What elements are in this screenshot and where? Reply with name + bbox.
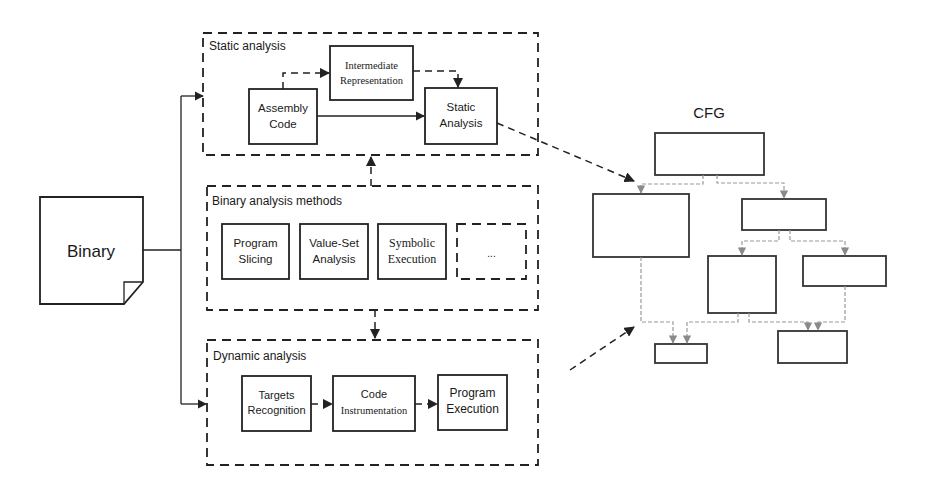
node-value-set-analysis: Value-Set Analysis xyxy=(300,224,368,279)
binary-fanout-connector xyxy=(143,96,206,404)
dynamic-analysis-group: Dynamic analysis Targets Recognition Cod… xyxy=(207,340,538,465)
svg-text:Execution: Execution xyxy=(446,402,499,416)
node-assembly-code: Assembly Code xyxy=(249,89,317,144)
binary-label: Binary xyxy=(67,242,116,261)
cfg-node-entry xyxy=(655,133,764,175)
node-static-analysis: Static Analysis xyxy=(425,88,497,144)
cfg-edge xyxy=(641,257,673,343)
dynamic-analysis-title: Dynamic analysis xyxy=(213,349,306,363)
edge-static-to-cfg xyxy=(497,123,634,181)
cfg-node-lower-left xyxy=(708,256,776,313)
diagram-canvas: Binary Static analysis Assembly Code Int… xyxy=(0,0,927,496)
svg-text:...: ... xyxy=(487,248,495,259)
svg-text:Representation: Representation xyxy=(340,75,404,86)
binary-document: Binary xyxy=(40,197,143,304)
svg-text:Targets: Targets xyxy=(258,389,295,401)
edge-assembly-to-ir xyxy=(283,73,329,89)
node-program-slicing: Program Slicing xyxy=(222,224,289,279)
svg-text:Program: Program xyxy=(449,386,495,400)
binary-methods-group: Binary analysis methods Program Slicing … xyxy=(207,157,538,338)
svg-text:Code: Code xyxy=(269,118,297,130)
cfg-edge xyxy=(742,230,779,255)
cfg-graph: CFG xyxy=(593,104,886,363)
svg-text:Value-Set: Value-Set xyxy=(309,237,359,249)
svg-text:Assembly: Assembly xyxy=(258,102,308,114)
svg-text:Analysis: Analysis xyxy=(440,117,483,129)
node-symbolic-execution: Symbolic Execution xyxy=(378,224,446,279)
node-targets-recognition: Targets Recognition xyxy=(242,376,311,431)
static-analysis-group: Static analysis Assembly Code Intermedia… xyxy=(203,33,538,155)
static-analysis-title: Static analysis xyxy=(209,39,286,53)
node-intermediate-representation: Intermediate Representation xyxy=(330,46,413,100)
node-code-instrumentation: Code Instrumentation xyxy=(333,376,415,431)
cfg-node-lower-right xyxy=(803,256,886,286)
cfg-edge xyxy=(749,313,808,330)
cfg-edge xyxy=(717,175,784,198)
edge-dynamic-to-cfg xyxy=(570,327,634,370)
svg-text:Symbolic: Symbolic xyxy=(389,236,435,250)
cfg-edge xyxy=(687,313,738,343)
svg-text:Intermediate: Intermediate xyxy=(345,60,398,71)
cfg-node-left xyxy=(593,194,689,257)
cfg-node-mid xyxy=(742,199,826,230)
edge-ir-to-static xyxy=(413,71,458,87)
node-program-execution: Program Execution xyxy=(438,375,507,430)
svg-text:Program: Program xyxy=(233,237,277,249)
svg-text:Execution: Execution xyxy=(388,252,437,266)
cfg-node-exit-right xyxy=(778,331,847,363)
svg-text:Code: Code xyxy=(361,388,387,400)
svg-text:Instrumentation: Instrumentation xyxy=(341,405,408,416)
cfg-title: CFG xyxy=(693,104,725,121)
svg-text:Recognition: Recognition xyxy=(247,404,305,416)
node-more-methods: ... xyxy=(457,224,526,279)
svg-text:Static: Static xyxy=(447,101,476,113)
cfg-node-exit-left xyxy=(655,344,707,363)
svg-text:Slicing: Slicing xyxy=(239,253,273,265)
cfg-edge xyxy=(641,175,703,193)
cfg-edge xyxy=(818,286,845,330)
binary-methods-title: Binary analysis methods xyxy=(212,194,342,208)
svg-text:Analysis: Analysis xyxy=(313,253,356,265)
cfg-edge xyxy=(790,230,845,255)
